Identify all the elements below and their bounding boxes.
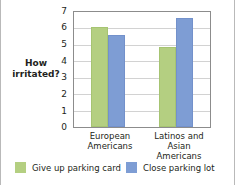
bar-european-americans-give-up-parking-card <box>91 27 108 127</box>
x-category-label-0-line-2: Americans <box>79 141 141 151</box>
y-tick-label-0: 0 <box>53 123 67 132</box>
bar-chart-figure: How irritated? 7 6 5 4 3 2 1 0 European … <box>0 0 235 185</box>
plot-area <box>73 11 211 128</box>
x-category-label-0: European Americans <box>79 131 141 151</box>
y-tick-label-7: 7 <box>53 7 67 16</box>
bar-latinos-asian-americans-close-parking-lot <box>176 18 193 127</box>
legend-item-give-up-parking-card: Give up parking card <box>15 162 121 173</box>
legend-swatch-blue-icon <box>126 162 137 173</box>
bar-european-americans-close-parking-lot <box>108 35 125 127</box>
y-tick-label-3: 3 <box>53 73 67 82</box>
x-category-label-1: Latinos and Asian Americans <box>143 131 215 161</box>
y-tick-label-5: 5 <box>53 40 67 49</box>
legend-label-close-parking-lot: Close parking lot <box>143 163 215 173</box>
y-tick-label-2: 2 <box>53 90 67 99</box>
legend-swatch-green-icon <box>15 162 26 173</box>
bar-latinos-asian-americans-give-up-parking-card <box>159 47 176 127</box>
legend-item-close-parking-lot: Close parking lot <box>126 162 215 173</box>
y-tick-label-6: 6 <box>53 23 67 32</box>
legend-label-give-up-parking-card: Give up parking card <box>32 163 121 173</box>
y-tick-label-1: 1 <box>53 107 67 116</box>
x-category-label-0-line-1: European <box>79 131 141 141</box>
y-tick-label-4: 4 <box>53 57 67 66</box>
chart-legend: Give up parking card Close parking lot <box>1 162 234 180</box>
x-category-label-1-line-1: Latinos and Asian <box>143 131 215 151</box>
x-category-label-1-line-2: Americans <box>143 151 215 161</box>
